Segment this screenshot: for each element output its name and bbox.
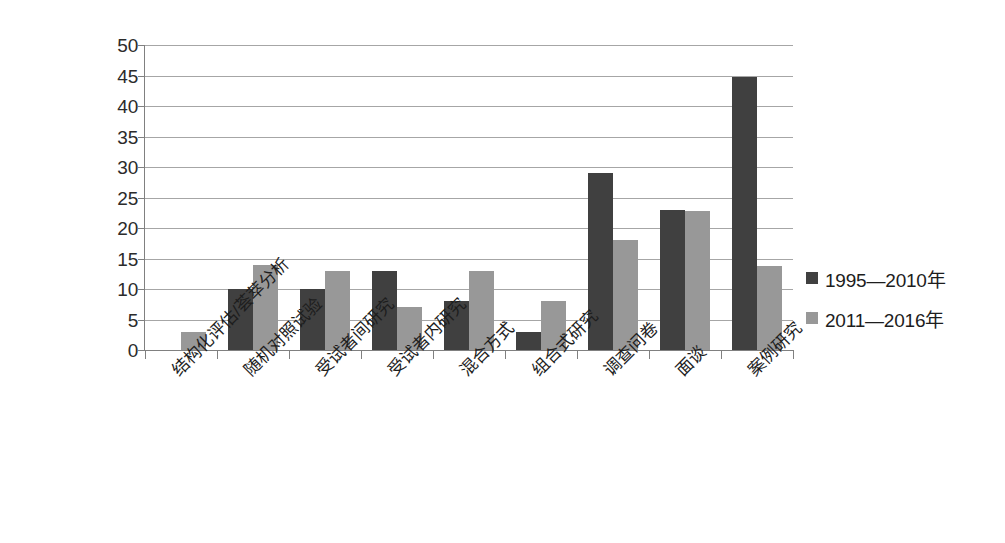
bar-group	[721, 45, 793, 350]
y-axis-tick-mark	[138, 137, 145, 138]
y-axis-tick-mark	[138, 106, 145, 107]
x-axis-tick-mark	[793, 351, 794, 359]
y-axis-tick-label: 15	[92, 250, 138, 269]
x-axis-tick-mark	[361, 351, 362, 359]
bar-group	[505, 45, 577, 350]
y-axis-tick-label: 10	[92, 280, 138, 299]
bar	[516, 332, 541, 350]
y-axis-tick-mark	[138, 76, 145, 77]
legend-swatch-icon	[806, 312, 818, 324]
y-axis-tick-mark	[138, 167, 145, 168]
y-axis-tick-label: 40	[92, 97, 138, 116]
x-axis-tick-mark	[217, 351, 218, 359]
y-axis-tick-mark	[138, 289, 145, 290]
bar-group	[361, 45, 433, 350]
legend-item[interactable]: 1995—2010年	[806, 258, 996, 298]
bar-group	[649, 45, 721, 350]
bar-group	[289, 45, 361, 350]
x-axis-tick-mark	[577, 351, 578, 359]
legend-label: 1995—2010年	[825, 265, 946, 292]
legend-swatch-icon	[806, 272, 818, 284]
y-axis-tick-label: 20	[92, 219, 138, 238]
bar	[685, 211, 710, 350]
legend-item[interactable]: 2011—2016年	[806, 298, 996, 338]
legend: 1995—2010年2011—2016年	[806, 258, 996, 338]
y-axis-tick-label: 45	[92, 67, 138, 86]
y-axis-tick-label: 35	[92, 128, 138, 147]
x-axis-tick-mark	[433, 351, 434, 359]
bar-group	[433, 45, 505, 350]
y-axis-tick-label: 30	[92, 158, 138, 177]
bar-group	[577, 45, 649, 350]
bar-chart: 05101520253035404550 结构化评估/荟萃分析随机对照试验受试者…	[0, 0, 1005, 543]
y-axis-tick-mark	[138, 228, 145, 229]
legend-label: 2011—2016年	[825, 305, 944, 332]
y-axis-tick-label: 0	[92, 341, 138, 360]
bar	[732, 77, 757, 350]
x-axis-tick-mark	[505, 351, 506, 359]
y-axis-tick-mark	[138, 45, 145, 46]
x-axis-tick-mark	[145, 351, 146, 359]
y-axis-tick-mark	[138, 198, 145, 199]
bar-group	[145, 45, 217, 350]
bar	[660, 210, 685, 350]
y-axis-tick-mark	[138, 259, 145, 260]
x-axis-tick-mark	[289, 351, 290, 359]
x-axis-tick-mark	[649, 351, 650, 359]
y-axis-tick-label: 5	[92, 311, 138, 330]
x-axis-tick-mark	[721, 351, 722, 359]
y-axis-tick-labels: 05101520253035404550	[88, 0, 138, 543]
y-axis-tick-label: 25	[92, 189, 138, 208]
y-axis-tick-mark	[138, 350, 145, 351]
y-axis-tick-label: 50	[92, 36, 138, 55]
y-axis-tick-mark	[138, 320, 145, 321]
